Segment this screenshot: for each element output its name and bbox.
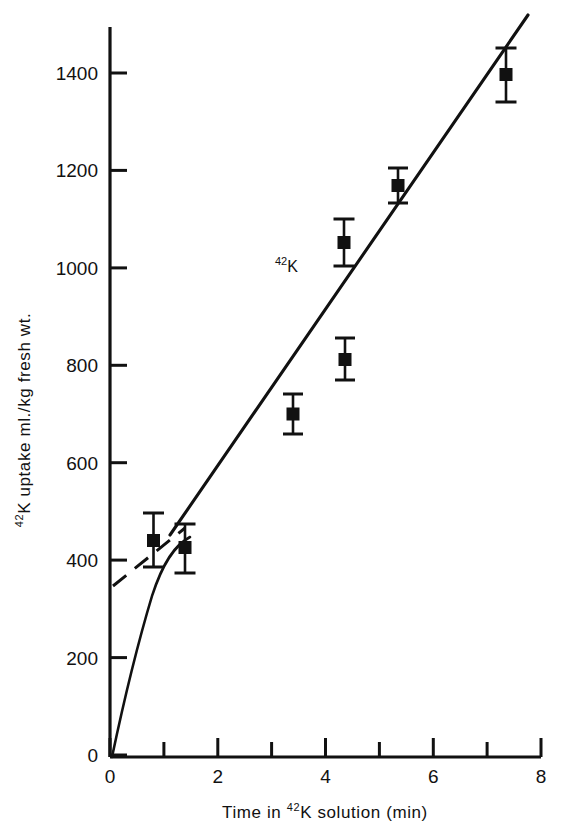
chart-figure: 0 200 400 600 800 1000 1200 1400 0 2 4 6…	[0, 0, 579, 837]
marker-square	[339, 353, 352, 366]
annotation-isotope-sup: 42	[275, 255, 287, 267]
y-axis-title-isotope-sup: 42	[13, 514, 25, 527]
marker-square	[500, 68, 513, 81]
y-axis-title-isotope-el: K	[15, 502, 34, 514]
x-ticklabel-0: 0	[105, 766, 116, 787]
y-ticklabel-800: 800	[66, 355, 98, 376]
y-axis-title-rest: uptake ml./kg fresh wt.	[15, 313, 34, 502]
y-ticklabel-400: 400	[66, 550, 98, 571]
x-axis-title-isotope-sup: 42	[287, 801, 300, 813]
x-ticklabel-8: 8	[536, 766, 547, 787]
y-ticklabel-0: 0	[87, 745, 98, 766]
y-axis-title: 42K uptake ml./kg fresh wt.	[13, 313, 34, 528]
x-ticklabel-4: 4	[320, 766, 331, 787]
x-axis-title: Time in 42K solution (min)	[222, 801, 428, 822]
annotation-isotope-el: K	[287, 258, 298, 275]
x-ticklabel-6: 6	[428, 766, 439, 787]
x-axis-title-prefix: Time in	[222, 803, 287, 822]
marker-square	[392, 179, 405, 192]
marker-square	[147, 534, 160, 547]
svg-text:42K uptake ml./kg fresh wt.: 42K uptake ml./kg fresh wt.	[13, 313, 34, 528]
svg-text:Time in 42K solution (min): Time in 42K solution (min)	[222, 801, 428, 822]
y-ticklabel-200: 200	[66, 648, 98, 669]
marker-square	[287, 408, 300, 421]
y-ticklabel-1200: 1200	[56, 160, 98, 181]
marker-square	[179, 541, 192, 554]
marker-square	[338, 236, 351, 249]
y-ticklabel-1400: 1400	[56, 63, 98, 84]
y-ticklabel-600: 600	[66, 453, 98, 474]
y-ticklabel-1000: 1000	[56, 258, 98, 279]
x-ticklabel-2: 2	[213, 766, 224, 787]
x-axis-title-isotope-el: K	[300, 803, 312, 822]
x-axis-title-suffix: solution (min)	[312, 803, 428, 822]
